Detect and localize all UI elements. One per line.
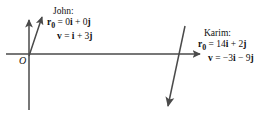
karim-velocity-arrow bbox=[168, 26, 185, 106]
john-position-equation: r0 = 0i + 0j bbox=[47, 17, 93, 31]
karim-name-label: Karim: bbox=[198, 28, 254, 39]
john-velocity-equation: v = i + 3j bbox=[47, 31, 93, 42]
karim-position-equation: r0 = 14i + 2j bbox=[198, 39, 254, 53]
john-name-label: John: bbox=[47, 6, 93, 17]
john-velocity-arrow bbox=[29, 17, 42, 56]
john-annotation: John: r0 = 0i + 0j v = i + 3j bbox=[47, 6, 93, 41]
origin-label: O bbox=[19, 55, 26, 66]
karim-annotation: Karim: r0 = 14i + 2j v = −3i − 9j bbox=[198, 28, 254, 63]
karim-velocity-equation: v = −3i − 9j bbox=[198, 53, 254, 64]
vector-diagram: O John: r0 = 0i + 0j v = i + 3j Karim: r… bbox=[0, 0, 278, 118]
